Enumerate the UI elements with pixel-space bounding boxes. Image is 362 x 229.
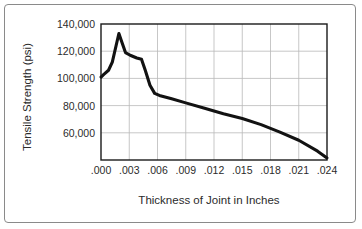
x-axis-title: Thickness of Joint in Inches bbox=[138, 194, 280, 206]
x-tick-label: .012 bbox=[204, 164, 225, 176]
x-tick-label: .000 bbox=[91, 164, 112, 176]
y-tick-label: 60,000 bbox=[63, 127, 95, 139]
x-tick-label: .009 bbox=[176, 164, 197, 176]
x-tick-label: .018 bbox=[260, 164, 281, 176]
y-tick-label: 120,000 bbox=[57, 45, 95, 57]
x-tick-label: .003 bbox=[119, 164, 140, 176]
x-tick-label: .024 bbox=[317, 164, 338, 176]
gridlines bbox=[101, 24, 327, 160]
x-tick-label: .006 bbox=[147, 164, 168, 176]
x-tick-label: .015 bbox=[232, 164, 253, 176]
figure-frame: .000.003.006.009.012.015.018.021.024 60,… bbox=[4, 4, 356, 223]
axis-titles: Thickness of Joint in Inches Tensile Str… bbox=[21, 43, 280, 206]
tensile-strength-chart: .000.003.006.009.012.015.018.021.024 60,… bbox=[5, 5, 357, 224]
y-axis-tick-labels: 60,00080,000100,000120,000140,000 bbox=[57, 18, 95, 139]
x-axis-tick-labels: .000.003.006.009.012.015.018.021.024 bbox=[91, 164, 338, 176]
x-tick-label: .021 bbox=[289, 164, 310, 176]
y-tick-label: 80,000 bbox=[63, 100, 95, 112]
y-axis-title: Tensile Strength (psi) bbox=[21, 43, 33, 151]
y-tick-label: 140,000 bbox=[57, 18, 95, 30]
y-tick-label: 100,000 bbox=[57, 72, 95, 84]
